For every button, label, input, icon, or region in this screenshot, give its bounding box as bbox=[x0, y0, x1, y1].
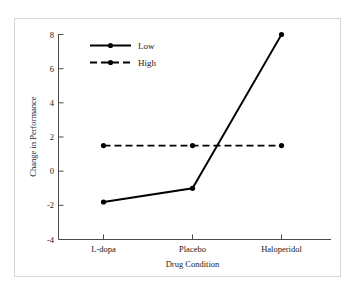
y-tick-labels: -4 -2 0 2 4 6 8 bbox=[47, 30, 55, 245]
series-low-line bbox=[104, 35, 282, 203]
y-tick-label-4: 4 bbox=[50, 98, 55, 108]
legend: Low High bbox=[90, 41, 157, 68]
y-tick-label-3: 2 bbox=[50, 132, 54, 142]
y-axis-title: Change in Performance bbox=[28, 96, 38, 176]
y-tick-label-2: 0 bbox=[50, 166, 54, 176]
series-low-point-placebo bbox=[190, 186, 195, 191]
legend-swatch-high-marker bbox=[108, 60, 113, 65]
series-high bbox=[101, 143, 284, 148]
legend-label-low: Low bbox=[138, 41, 155, 51]
series-high-point-ldopa bbox=[101, 143, 106, 148]
y-tick-marks bbox=[59, 35, 64, 240]
series-high-point-placebo bbox=[190, 143, 195, 148]
line-chart: -4 -2 0 2 4 6 8 L-dopa Placebo Haloperid… bbox=[0, 0, 357, 296]
x-tick-label-ldopa: L-dopa bbox=[91, 244, 116, 254]
legend-item-low[interactable]: Low bbox=[90, 41, 155, 51]
figure-container: -4 -2 0 2 4 6 8 L-dopa Placebo Haloperid… bbox=[0, 0, 357, 296]
legend-swatch-low-marker bbox=[108, 43, 113, 48]
x-axis-title: Drug Condition bbox=[166, 259, 220, 269]
series-low-point-ldopa bbox=[101, 199, 106, 204]
y-tick-label-5: 6 bbox=[50, 64, 54, 74]
series-high-point-haloperidol bbox=[279, 143, 284, 148]
x-tick-label-haloperidol: Haloperidol bbox=[261, 244, 302, 254]
x-tick-label-placebo: Placebo bbox=[179, 244, 206, 254]
y-tick-label-1: -2 bbox=[47, 200, 54, 210]
y-tick-label-6: 8 bbox=[50, 30, 54, 40]
legend-item-high[interactable]: High bbox=[90, 58, 157, 68]
series-low-point-haloperidol bbox=[279, 32, 284, 37]
legend-label-high: High bbox=[138, 58, 157, 68]
series-low bbox=[101, 32, 284, 205]
x-tick-marks bbox=[104, 235, 282, 240]
x-tick-labels: L-dopa Placebo Haloperidol bbox=[91, 244, 302, 254]
y-tick-label-0: -4 bbox=[47, 235, 55, 245]
